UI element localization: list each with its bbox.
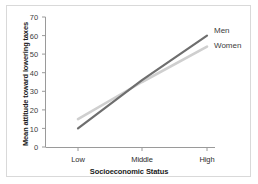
series-line-women bbox=[78, 47, 207, 119]
x-tick-label-low: Low bbox=[56, 155, 100, 164]
y-tick-marks bbox=[42, 17, 46, 147]
y-axis-title: Mean attitude toward lowering taxes bbox=[21, 22, 30, 146]
chart-figure: 0 10 20 30 40 50 60 70 Low Middle High M… bbox=[0, 0, 258, 184]
x-tick-label-middle: Middle bbox=[120, 155, 164, 164]
x-tick-marks bbox=[78, 148, 207, 152]
y-tick-label-70: 70 bbox=[18, 13, 38, 22]
series-label-women: Women bbox=[214, 41, 241, 50]
x-tick-label-high: High bbox=[185, 155, 229, 164]
x-axis-title: Socioeconomic Status bbox=[0, 167, 258, 176]
series-label-men: Men bbox=[214, 26, 230, 35]
